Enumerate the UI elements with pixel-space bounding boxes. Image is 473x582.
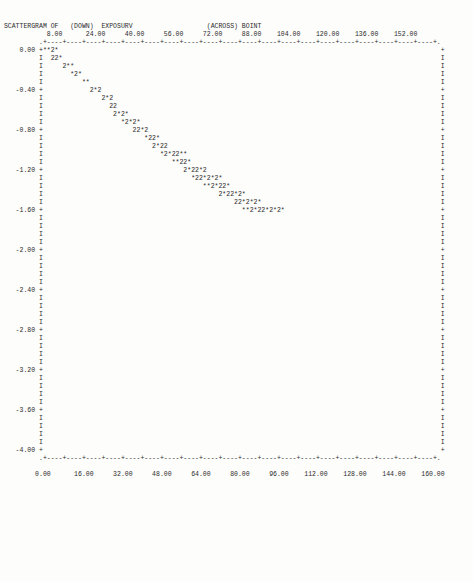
scattergram-ascii-output: SCATTERGRAM OF (DOWN) EXPOSURV (ACROSS) … xyxy=(0,7,473,479)
scattergram-printout: SCATTERGRAM OF (DOWN) EXPOSURV (ACROSS) … xyxy=(0,0,473,582)
